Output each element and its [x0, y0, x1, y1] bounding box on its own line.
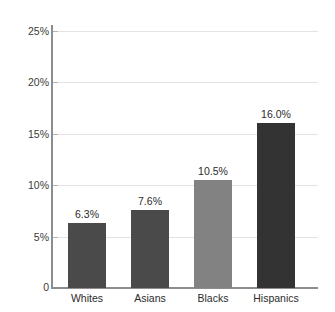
bar-value-blacks: 10.5% [188, 165, 238, 177]
x-tick-label-whites: Whites [57, 292, 117, 305]
y-tick-label-5: 5% [5, 232, 49, 243]
tickmark-10 [53, 185, 58, 186]
tickmark-5 [53, 237, 58, 238]
bar-value-whites: 6.3% [62, 208, 112, 220]
tickmark-20 [53, 82, 58, 83]
x-tick-label-blacks: Blacks [183, 292, 243, 305]
tickmark-15 [53, 134, 58, 135]
x-tick-label-asians: Asians [120, 292, 180, 305]
y-axis-tick-labels: 25% 20% 15% 10% 5% 0 [0, 0, 49, 312]
bar-blacks[interactable] [194, 180, 232, 288]
y-tick-label-15: 15% [5, 129, 49, 140]
y-axis-line [51, 25, 53, 289]
gridline-20 [53, 82, 318, 83]
y-tick-label-25: 25% [5, 26, 49, 37]
y-tick-label-10: 10% [5, 180, 49, 191]
tickmark-25 [53, 31, 58, 32]
bar-chart: 25% 20% 15% 10% 5% 0 6.3% 7.6% 10.5% 16.… [0, 0, 335, 312]
bar-hispanics[interactable] [257, 123, 295, 288]
x-tick-label-hispanics: Hispanics [243, 292, 309, 305]
y-tick-label-0: 0 [5, 282, 49, 293]
gridline-25 [53, 31, 318, 32]
bar-whites[interactable] [68, 223, 106, 288]
bar-asians[interactable] [131, 210, 169, 288]
bar-value-asians: 7.6% [125, 195, 175, 207]
bar-value-hispanics: 16.0% [251, 108, 301, 120]
y-tick-label-20: 20% [5, 77, 49, 88]
